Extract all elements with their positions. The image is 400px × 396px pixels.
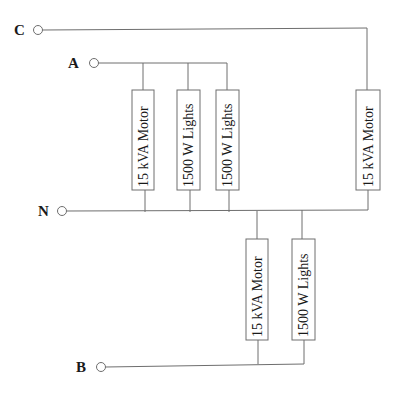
terminal-c: C [14,22,43,38]
terminal-n: N [38,203,67,219]
phase-b-wire [106,364,305,367]
terminal-b-connector [97,363,106,372]
load-b-motor: 15 kVA Motor [246,239,268,340]
terminal-a-connector [90,59,99,68]
load-label: 15 kVA Motor [250,256,265,337]
terminal-n-label: N [38,203,49,219]
load-b-lights: 1500 W Lights [292,239,315,340]
terminal-a-label: A [68,55,79,71]
load-c-motor: 15 kVA Motor [356,90,380,190]
phase-a-wire [99,63,228,90]
load-label: 1500 W Lights [296,254,311,338]
terminal-c-label: C [14,22,25,38]
terminal-c-connector [34,26,43,35]
circuit-diagram: C A 15 kVA Motor 1500 W Lights 1500 W Li… [0,0,400,396]
neutral-wire [67,210,369,211]
load-a-lights-1: 1500 W Lights [177,90,200,190]
load-a-lights-2: 1500 W Lights [216,90,239,190]
terminal-b-label: B [76,359,86,375]
terminal-n-connector [58,207,67,216]
load-label: 1500 W Lights [220,104,235,188]
terminal-a: A [68,55,99,71]
load-label: 15 kVA Motor [361,106,376,187]
load-label: 1500 W Lights [181,104,196,188]
load-a-motor: 15 kVA Motor [132,90,154,190]
terminal-b: B [76,359,106,375]
load-label: 15 kVA Motor [136,106,151,187]
